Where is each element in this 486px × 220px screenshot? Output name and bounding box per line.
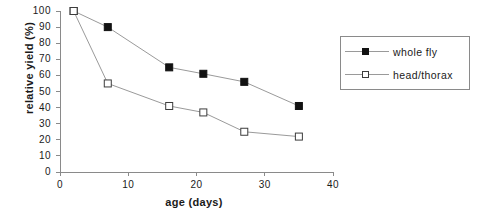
data-point-marker — [295, 133, 302, 140]
y-axis-tick-label: 40 — [21, 103, 51, 113]
y-axis-tick-label: 0 — [21, 167, 51, 177]
x-axis-tick-label: 40 — [318, 180, 348, 190]
data-point-marker — [104, 24, 111, 31]
data-point-marker — [166, 102, 173, 109]
data-point-marker — [295, 102, 302, 109]
y-axis-tick-label: 30 — [21, 119, 51, 129]
y-axis-tick-label: 70 — [21, 54, 51, 64]
y-axis-ticks — [56, 11, 60, 172]
y-axis-tick-label: 100 — [21, 6, 51, 16]
y-axis-tick-label: 50 — [21, 87, 51, 97]
data-point-marker — [70, 8, 77, 15]
x-axis-tick-label: 30 — [250, 180, 280, 190]
legend-item-whole-fly: whole fly — [341, 42, 471, 62]
y-axis-tick-label: 20 — [21, 135, 51, 145]
legend-item-head-thorax: head/thorax — [341, 65, 471, 85]
x-axis-tick-label: 20 — [182, 180, 212, 190]
y-axis-tick-label: 60 — [21, 70, 51, 80]
x-axis-tick-label: 10 — [113, 180, 143, 190]
x-axis-title: age (days) — [60, 196, 328, 208]
legend-label: head/thorax — [393, 69, 453, 81]
data-point-marker — [200, 70, 207, 77]
y-axis-tick-label: 10 — [21, 151, 51, 161]
legend-swatch-open-square-icon — [341, 68, 393, 82]
x-axis-ticks — [60, 172, 333, 176]
legend-swatch-filled-square-icon — [341, 45, 393, 59]
data-point-marker — [166, 64, 173, 71]
axes-group — [56, 11, 333, 176]
data-point-marker — [200, 109, 207, 116]
chart-legend: whole fly head/thorax — [340, 36, 470, 90]
data-point-marker — [104, 80, 111, 87]
data-point-marker — [241, 78, 248, 85]
x-axis-tick-label: 0 — [45, 180, 75, 190]
series-markers — [70, 8, 302, 141]
chart-figure: relative yield (%) age (days) 0102030405… — [0, 0, 486, 220]
legend-label: whole fly — [393, 46, 437, 58]
y-axis-tick-label: 90 — [21, 22, 51, 32]
y-axis-tick-label: 80 — [21, 38, 51, 48]
data-point-marker — [241, 128, 248, 135]
